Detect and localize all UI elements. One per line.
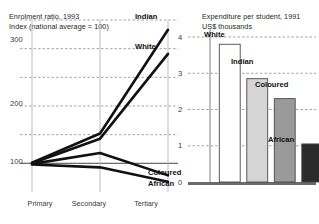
line-series-label-indian: Indian	[135, 12, 157, 21]
bar-ytick-1: 1	[178, 141, 182, 150]
bar-label-coloured: Coloured	[255, 80, 288, 89]
bar-chart-panel: Expenditure per student, 1991 US$ thousa…	[196, 0, 319, 224]
line-chart-panel: Enrolment ratio, 1993 Index (national av…	[0, 0, 196, 224]
bar-ytick-3: 3	[178, 69, 182, 78]
line-series-label-african: African	[148, 179, 174, 188]
line-chart-plot	[0, 0, 196, 224]
line-ytick-100: 100	[10, 157, 23, 166]
line-series-label-white: White	[135, 42, 156, 51]
bar-ytick-4: 4	[178, 33, 182, 42]
bar-indian	[247, 79, 268, 182]
bar-ytick-2: 2	[178, 105, 182, 114]
bar-label-african: African	[268, 135, 294, 144]
line-xtick-tertiary: Tertiary	[122, 199, 170, 208]
bar-african	[302, 144, 319, 182]
line-xtick-secondary: Secondary	[61, 199, 117, 208]
bar-label-white: White	[204, 30, 225, 39]
line-series-label-coloured: Coloured	[148, 168, 181, 177]
line-xtick-primary: Primary	[18, 199, 62, 208]
bar-label-indian: Indian	[231, 57, 253, 66]
line-ytick-200: 200	[10, 99, 23, 108]
figure-container: Enrolment ratio, 1993 Index (national av…	[0, 0, 319, 224]
line-ytick-300: 300	[10, 35, 23, 44]
bar-ytick-0: 0	[178, 178, 182, 187]
